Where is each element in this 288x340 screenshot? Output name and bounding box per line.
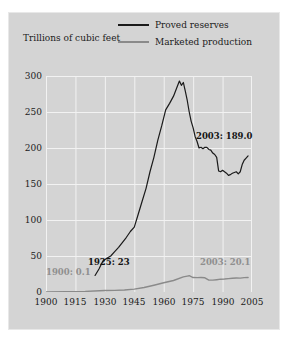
x-axis-tick-labels: 1900 1915 1930 1945 1960 1975 1990 2005 bbox=[0, 298, 288, 312]
y-tick-label: 300 bbox=[10, 72, 42, 81]
annotation-2003-reserves: 2003: 189.0 bbox=[196, 132, 252, 141]
legend-swatch-line-icon bbox=[118, 24, 149, 26]
y-tick-label: 250 bbox=[10, 108, 42, 117]
legend-item-marketed-production: Marketed production bbox=[118, 33, 268, 50]
annotation-1925-reserves: 1925: 23 bbox=[88, 258, 130, 267]
y-tick-label: 100 bbox=[10, 216, 42, 225]
legend-swatch-line-icon bbox=[118, 41, 149, 43]
annotation-2003-production: 2003: 20.1 bbox=[200, 258, 250, 267]
chart-screenshot: Proved reserves Marketed production Tril… bbox=[0, 0, 288, 340]
annotation-1900-production: 1900: 0.1 bbox=[46, 268, 91, 277]
y-tick-label: 0 bbox=[10, 288, 42, 297]
x-tick-label: 1915 bbox=[58, 298, 92, 307]
y-tick-label: 150 bbox=[10, 180, 42, 189]
legend-label: Marketed production bbox=[155, 37, 252, 47]
y-tick-label: 50 bbox=[10, 252, 42, 261]
x-tick-label: 1975 bbox=[176, 298, 210, 307]
x-tick-label: 2005 bbox=[235, 298, 269, 307]
x-tick-label: 1945 bbox=[117, 298, 151, 307]
series-line-proved-reserves bbox=[95, 81, 248, 275]
y-tick-label: 200 bbox=[10, 144, 42, 153]
legend-label: Proved reserves bbox=[155, 20, 229, 30]
y-axis-tick-labels: 300 250 200 150 100 50 0 bbox=[8, 0, 42, 340]
chart-legend: Proved reserves Marketed production bbox=[118, 16, 268, 50]
legend-item-proved-reserves: Proved reserves bbox=[118, 16, 268, 33]
